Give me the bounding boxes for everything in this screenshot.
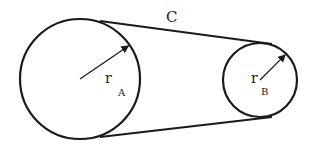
pulley-b-radius-label: r [251, 70, 258, 86]
belt-label: C [166, 8, 177, 26]
belt-pulley-diagram: r A r B C [0, 0, 319, 152]
belt-bottom-segment [100, 117, 272, 137]
pulley-b-subscript: B [261, 86, 268, 97]
pulley-a-radius-label: r [105, 70, 112, 86]
pulley-a-subscript: A [117, 87, 126, 98]
pulley-b-radius-arrow [260, 55, 285, 80]
